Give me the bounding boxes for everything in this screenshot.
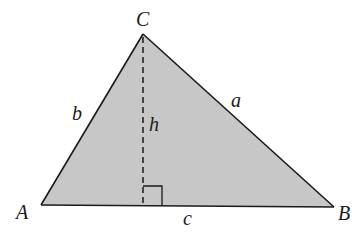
vertex-label-c: C — [136, 8, 150, 30]
triangle-fill — [41, 34, 334, 207]
vertex-label-b: B — [338, 202, 350, 224]
triangle-diagram: C A B b a c h — [0, 0, 352, 248]
side-label-b: b — [72, 102, 82, 124]
altitude-label-h: h — [149, 113, 159, 135]
vertex-label-a: A — [14, 201, 29, 223]
side-label-c: c — [183, 207, 192, 229]
side-label-a: a — [231, 89, 241, 111]
